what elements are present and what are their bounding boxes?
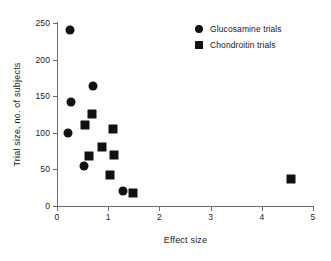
x-axis-line xyxy=(57,206,314,207)
y-tick-label: 250 xyxy=(36,18,50,28)
data-point xyxy=(87,109,96,118)
data-point xyxy=(84,152,93,161)
legend-label-glucosamine: Glucosamine trials xyxy=(210,24,282,34)
legend: Glucosamine trials Chondroitin trials xyxy=(195,22,282,54)
x-tick xyxy=(262,207,263,211)
data-point xyxy=(64,128,73,137)
scatter-plot-figure: 012345 050100150200250 Effect size Trial… xyxy=(0,0,331,261)
x-tick xyxy=(313,207,314,211)
x-tick-label: 0 xyxy=(55,212,60,222)
data-point xyxy=(88,81,97,90)
legend-label-chondroitin: Chondroitin trials xyxy=(210,40,276,50)
x-tick-label: 4 xyxy=(259,212,264,222)
x-tick-label: 2 xyxy=(157,212,162,222)
data-point xyxy=(66,26,75,35)
x-tick xyxy=(57,207,58,211)
y-tick-label: 0 xyxy=(45,201,50,211)
x-tick xyxy=(211,207,212,211)
y-tick xyxy=(53,23,57,24)
x-tick xyxy=(159,207,160,211)
x-tick xyxy=(108,207,109,211)
x-tick-label: 1 xyxy=(106,212,111,222)
legend-item-glucosamine: Glucosamine trials xyxy=(195,22,282,36)
legend-item-chondroitin: Chondroitin trials xyxy=(195,38,282,52)
y-axis-title: Trial size, no. of subjects xyxy=(10,23,24,206)
y-tick-label: 150 xyxy=(36,91,50,101)
data-point xyxy=(109,125,118,134)
circle-marker-icon xyxy=(195,25,203,33)
data-point xyxy=(110,151,119,160)
data-point xyxy=(128,188,137,197)
y-tick-label: 50 xyxy=(40,164,50,174)
x-axis-title: Effect size xyxy=(57,235,314,245)
data-point xyxy=(287,174,296,183)
data-point xyxy=(81,120,90,129)
x-tick-label: 3 xyxy=(208,212,213,222)
y-tick xyxy=(53,169,57,170)
data-point xyxy=(105,170,114,179)
y-tick-label: 100 xyxy=(36,128,50,138)
y-tick xyxy=(53,60,57,61)
y-tick xyxy=(53,133,57,134)
square-marker-icon xyxy=(195,41,203,49)
data-point xyxy=(66,98,75,107)
data-point xyxy=(79,161,88,170)
y-tick xyxy=(53,96,57,97)
data-point xyxy=(118,186,127,195)
y-tick xyxy=(53,206,57,207)
y-tick-label: 200 xyxy=(36,55,50,65)
data-point xyxy=(97,143,106,152)
y-axis-line xyxy=(57,22,58,207)
x-tick-label: 5 xyxy=(311,212,316,222)
